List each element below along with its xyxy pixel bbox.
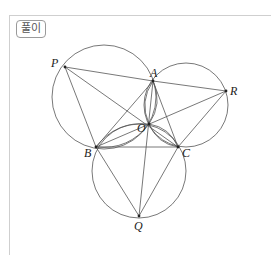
- segments-group: [65, 67, 226, 216]
- point-dots-group: [64, 66, 228, 218]
- label-A: A: [149, 66, 158, 80]
- label-R: R: [229, 84, 238, 98]
- point-Q: [138, 215, 141, 218]
- point-A: [152, 80, 155, 83]
- segment-PA: [65, 67, 153, 81]
- segment-AB: [96, 81, 153, 147]
- label-Q: Q: [134, 219, 143, 233]
- segment-AC: [153, 81, 178, 147]
- point-C: [177, 146, 180, 149]
- point-B: [95, 146, 98, 149]
- label-O: O: [137, 121, 146, 135]
- point-P: [64, 66, 67, 69]
- label-C: C: [182, 146, 191, 160]
- circle-BCQ: [92, 124, 186, 218]
- segment-PB: [65, 67, 96, 147]
- label-P: P: [50, 56, 59, 70]
- segment-BQ: [96, 147, 139, 216]
- segment-RC: [178, 91, 226, 147]
- point-R: [225, 90, 228, 93]
- segment-PC: [65, 67, 178, 147]
- segment-AR: [153, 81, 226, 91]
- point-O: [148, 123, 151, 126]
- label-B: B: [84, 146, 92, 160]
